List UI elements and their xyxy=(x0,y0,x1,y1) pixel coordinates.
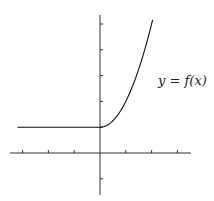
axes xyxy=(10,15,191,195)
function-curve xyxy=(17,20,152,127)
function-label: y = f(x) xyxy=(158,73,207,88)
chart xyxy=(0,0,214,201)
